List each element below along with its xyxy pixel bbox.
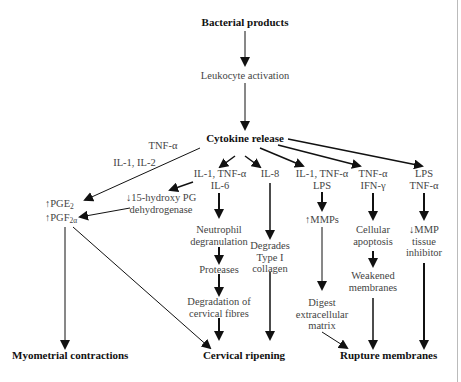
label: IL-1, IL-2 [113,157,156,168]
label: Leukocyte activation [201,70,289,81]
node-tnf-ifn: TNF-α IFN-γ [353,168,393,191]
node-rupture-membranes: Rupture membranes [340,350,436,362]
label-line-1: Cellular [348,224,398,236]
arrow-cytokine-to-ifn [278,145,360,166]
node-weakened-membranes: Weakened membranes [343,270,403,293]
label: Proteases [184,264,254,276]
label-line-2: dehydrogenase [126,204,196,216]
node-il1-tnf-lps: IL-1, TNF-α LPS [292,168,352,191]
label-line-2: LPS [292,180,352,192]
pgf2a-line: ↑PGF2α [45,212,85,224]
label-line-2: Type I [250,252,290,264]
label-line-2: TNF-α [404,180,444,192]
label: Myometrial contractions [12,349,128,361]
node-leukocyte-activation: Leukocyte activation [195,70,295,82]
arrow-cytokine-to-lps [260,148,303,166]
label-line-2: extracellular [292,309,352,321]
label-line-1: ↓MMP [404,224,444,236]
arrow-hydroxy-to-pgf [80,208,130,217]
node-cellular-apoptosis: Cellular apoptosis [348,224,398,247]
label: TNF-α [149,140,178,151]
node-15-hydroxy-pg-dehydrogenase: ↓15-hydroxy PG dehydrogenase [126,192,196,215]
pge2-subscript: 2 [70,202,74,211]
pge2-text: ↑PGE [45,198,70,209]
node-degradation-cervical-fibres: Degradation of cervical fibres [179,296,259,319]
label-line-1: Neutrophil [184,224,254,236]
label-line-1: Degrades [250,240,290,252]
label-line-1: TNF-α [353,168,393,180]
pge2-line: ↑PGE2 [45,198,85,210]
label-line-3: collagen [250,263,290,275]
label-line-1: Degradation of [179,296,259,308]
node-proteases: Proteases [184,264,254,276]
node-prostaglandins: ↑PGE2 ↑PGF2α [45,198,85,223]
arrow-digest-to-rupture [322,332,347,348]
label: Bacterial products [202,16,289,28]
label-line-1: ↓15-hydroxy PG [126,192,196,204]
right-border-line [457,0,458,382]
label: Rupture membranes [340,349,437,361]
node-myometrial-contractions: Myometrial contractions [12,350,122,362]
node-increased-mmps: ↑MMPs [302,214,342,226]
label-line-2: tissue [404,236,444,248]
label: IL-8 [255,168,285,180]
label-line-1: IL-1, TNF-α [292,168,352,180]
label-line-2: apoptosis [348,236,398,248]
label-line-2: IL-6 [190,180,250,192]
label: Cervical ripening [203,349,285,361]
node-il8: IL-8 [255,168,285,180]
label-line-1: IL-1, TNF-α [190,168,250,180]
node-degrades-type-i-collagen: Degrades Type I collagen [250,240,290,275]
arrow-cytokine-to-il8 [245,156,260,167]
arrow-layer [0,0,461,382]
label-line-2: membranes [343,282,403,294]
label-line-2: cervical fibres [179,308,259,320]
label-line-2: degranulation [184,236,254,248]
node-il1-tnf-il6: IL-1, TNF-α IL-6 [190,168,250,191]
label-line-1: Weakened [343,270,403,282]
node-decreased-mmp-tissue-inhibitor: ↓MMP tissue inhibitor [404,224,444,259]
node-digest-extracellular-matrix: Digest extracellular matrix [292,297,352,332]
label-line-3: matrix [292,320,352,332]
node-cervical-ripening: Cervical ripening [202,350,286,362]
arrow-cytokine-to-il6 [220,156,235,167]
edge-label-tnf-alpha: TNF-α [148,140,178,152]
label: Cytokine release [206,132,284,144]
node-neutrophil-degranulation: Neutrophil degranulation [184,224,254,247]
label-line-1: Digest [292,297,352,309]
pgf2a-subscript: 2α [70,216,78,225]
node-lps-tnf: LPS TNF-α [404,168,444,191]
label: ↑MMPs [302,214,342,226]
diagram-canvas: Bacterial products Leukocyte activation … [0,0,461,382]
node-bacterial-products: Bacterial products [195,17,295,29]
node-cytokine-release: Cytokine release [195,133,295,145]
pgf2a-text: ↑PGF [45,212,70,223]
label-line-1: LPS [404,168,444,180]
label-line-2: IFN-γ [353,180,393,192]
label-line-3: inhibitor [404,247,444,259]
edge-label-il1-il2: IL-1, IL-2 [112,157,157,169]
